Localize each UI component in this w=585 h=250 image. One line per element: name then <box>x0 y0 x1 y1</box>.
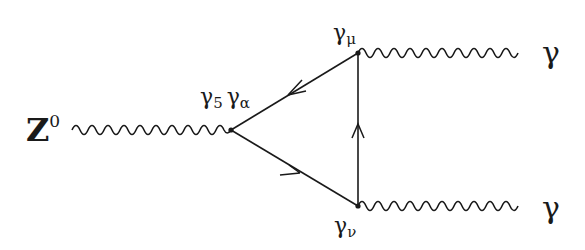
vertex-bottom <box>355 203 360 208</box>
arrow-left-bottom-icon <box>280 165 300 175</box>
top-vertex-label: γμ <box>333 20 356 48</box>
left-vertex-label: γ5γα <box>200 84 250 112</box>
feynman-diagram: Z0 γ5γα γμ γν γ γ <box>0 0 585 250</box>
arrow-top-left-icon <box>288 80 306 95</box>
bottom-vertex-label: γν <box>334 213 356 241</box>
z-boson-label: Z0 <box>26 111 60 149</box>
photon-bottom-wavy-line <box>358 202 518 211</box>
vertex-left <box>228 127 233 132</box>
fermion-line-left-bottom <box>231 130 358 206</box>
z-boson-wavy-line <box>72 126 231 135</box>
photon-bottom-label: γ <box>542 190 560 225</box>
vertex-top <box>355 50 360 55</box>
photon-top-wavy-line <box>358 49 518 58</box>
fermion-line-top-left <box>231 53 358 130</box>
photon-top-label: γ <box>542 35 560 70</box>
